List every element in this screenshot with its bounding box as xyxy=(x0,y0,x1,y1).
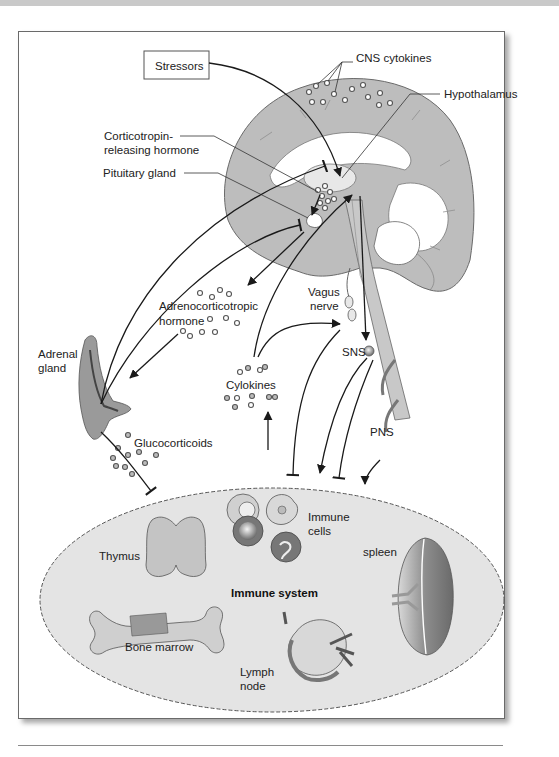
acth-dots xyxy=(181,288,240,339)
spleen xyxy=(398,538,453,655)
lymph-node-label-line1: Lymph xyxy=(240,666,274,678)
glucocorticoids-label: Glucocorticoids xyxy=(134,437,213,449)
pns-label: PNS xyxy=(370,426,394,438)
diagram: Stressors CNS cytokines Hypothalamus Cor… xyxy=(0,0,559,757)
adrenal-label-line1: Adrenal xyxy=(38,348,78,360)
thymus-label: Thymus xyxy=(99,550,140,562)
acth-label-line1: Adrenocorticotropic xyxy=(159,300,258,312)
crh-label-line2: releasing hormone xyxy=(104,144,199,156)
pituitary-label: Pituitary gland xyxy=(103,167,176,179)
cytokines-label: Cylokines xyxy=(226,379,276,391)
immune-cells-label-line2: cells xyxy=(308,525,331,537)
vagus-label-line2: nerve xyxy=(310,300,339,312)
bone-marrow-label: Bone marrow xyxy=(125,641,194,653)
adrenal-label-line2: gland xyxy=(38,362,66,374)
vagus-nerve xyxy=(345,268,356,321)
immune-cells-label-line1: Immune xyxy=(308,511,350,523)
sns-label: SNS xyxy=(342,346,366,358)
spleen-label: spleen xyxy=(363,546,397,558)
acth-label-line2: hormone xyxy=(159,315,204,327)
hypothalamus-label: Hypothalamus xyxy=(444,88,518,100)
vagus-label-line1: Vagus xyxy=(308,286,340,298)
cns-cytokines-label: CNS cytokines xyxy=(356,52,432,64)
crh-label-line1: Corticotropin- xyxy=(104,130,173,142)
pituitary-gland xyxy=(307,213,323,227)
lymph-node-label-line2: node xyxy=(240,680,266,692)
stressors-label: Stressors xyxy=(155,60,204,72)
immune-system-label: Immune system xyxy=(231,587,318,599)
